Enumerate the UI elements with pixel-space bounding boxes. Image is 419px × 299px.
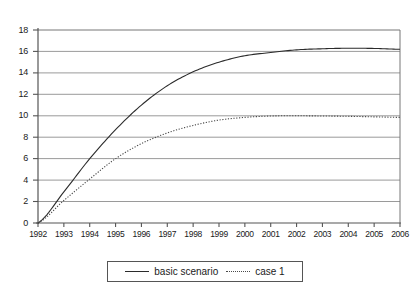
x-axis-ticks [38,223,400,227]
legend-item-case-1: case 1 [226,267,284,277]
y-axis-tick-label-0: 0 [8,219,28,228]
y-axis-tick-label-4: 4 [8,176,28,185]
line-chart-plot [0,0,419,299]
legend-item-basic-scenario: basic scenario [125,267,218,277]
plot-frame [36,28,401,224]
legend-swatch-solid-line-icon [125,268,149,275]
y-axis-tick-label-8: 8 [8,133,28,142]
y-axis-tick-label-14: 14 [8,68,28,77]
y-axis-tick-label-12: 12 [8,90,28,99]
y-axis-tick-label-6: 6 [8,154,28,163]
legend-label-basic-scenario: basic scenario [154,267,218,277]
y-axis-tick-label-10: 10 [8,111,28,120]
plot-gridlines [38,51,400,201]
chart-figure: 024681012141618 199219931994199519961997… [0,0,419,299]
chart-legend: basic scenario case 1 [107,261,303,282]
y-axis-tick-label-2: 2 [8,197,28,206]
y-axis-tick-label-18: 18 [8,26,28,35]
series-line-case-1 [38,116,400,223]
legend-label-case-1: case 1 [255,267,284,277]
series-line-basic-scenario [38,48,400,223]
y-axis-tick-label-16: 16 [8,47,28,56]
y-axis-ticks [33,30,38,223]
x-axis-tick-label-2006: 2006 [385,230,415,239]
legend-swatch-dotted-line-icon [226,268,250,275]
